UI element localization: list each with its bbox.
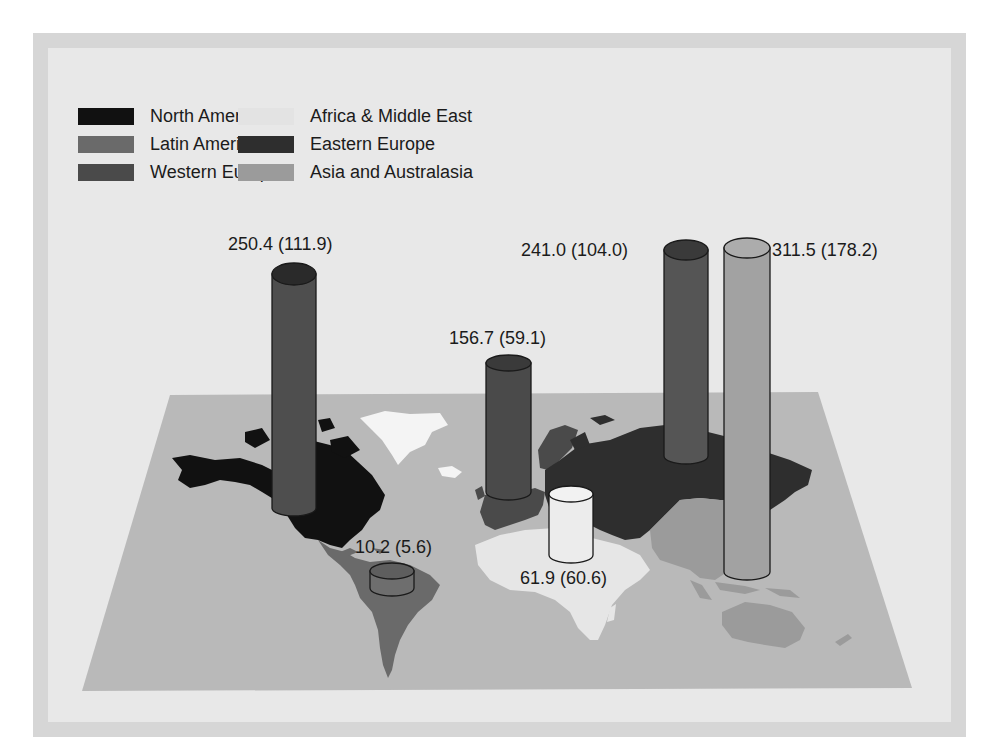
cylinder-africa-middle-east — [549, 486, 593, 563]
legend-label: Asia and Australasia — [310, 162, 473, 183]
legend-swatch-africa-middle-east — [238, 108, 294, 125]
legend: North America Latin America Western Euro… — [78, 104, 578, 188]
data-label-latin-america: 10.2 (5.6) — [355, 537, 432, 558]
legend-item-latin-america: Latin America — [78, 132, 259, 156]
legend-label: Africa & Middle East — [310, 106, 472, 127]
legend-label: Eastern Europe — [310, 134, 435, 155]
legend-item-africa-middle-east: Africa & Middle East — [238, 104, 472, 128]
legend-swatch-north-america — [78, 108, 134, 125]
legend-swatch-western-europe — [78, 164, 134, 181]
legend-swatch-eastern-europe — [238, 136, 294, 153]
legend-swatch-latin-america — [78, 136, 134, 153]
legend-item-asia-australasia: Asia and Australasia — [238, 160, 473, 184]
cylinder-latin-america — [370, 563, 414, 596]
data-label-asia-australasia: 311.5 (178.2) — [772, 240, 878, 261]
cylinder-western-europe — [486, 355, 531, 500]
cylinder-asia-australasia — [724, 238, 770, 580]
legend-swatch-asia-australasia — [238, 164, 294, 181]
cylinder-north-america — [272, 263, 316, 516]
data-label-north-america: 250.4 (111.9) — [228, 234, 332, 255]
data-label-western-europe: 156.7 (59.1) — [449, 328, 546, 349]
legend-item-eastern-europe: Eastern Europe — [238, 132, 435, 156]
data-label-eastern-europe: 241.0 (104.0) — [521, 240, 628, 261]
legend-item-north-america: North America — [78, 104, 264, 128]
data-label-africa-middle-east: 61.9 (60.6) — [520, 568, 607, 589]
cylinder-eastern-europe — [664, 240, 708, 464]
